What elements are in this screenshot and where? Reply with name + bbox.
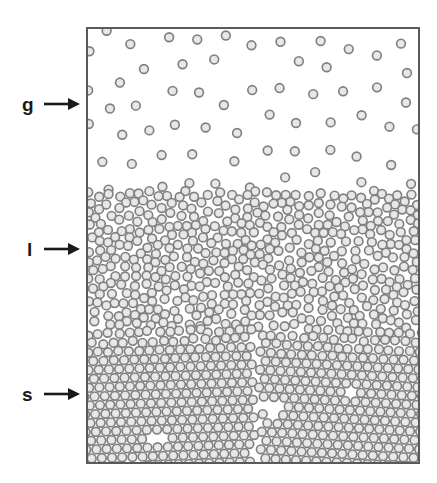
right-arrow-icon-liquid <box>44 240 82 258</box>
right-arrow-icon-gas <box>44 95 82 113</box>
phase-label-liquid: l <box>27 240 32 259</box>
particle-scatter-canvas <box>88 29 418 462</box>
simulation-box <box>86 27 420 464</box>
figure-root: g l s <box>0 0 437 483</box>
right-arrow-icon-solid <box>44 385 82 403</box>
phase-label-solid: s <box>22 385 33 404</box>
phase-label-gas: g <box>22 95 34 114</box>
